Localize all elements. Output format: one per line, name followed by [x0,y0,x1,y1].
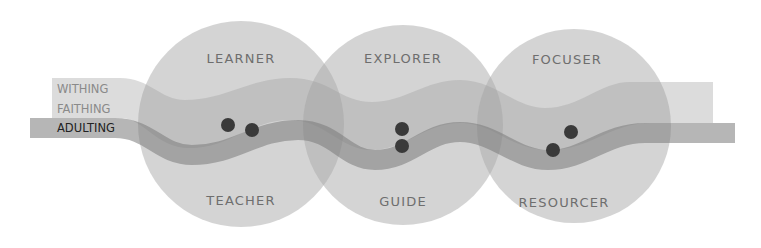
dot [395,122,409,136]
label-resourcer: RESOURCER [519,195,610,210]
band-label-adulting: ADULTING [57,121,115,135]
band-label-withing: WITHING [57,82,108,96]
dot [245,123,259,137]
label-teacher: TEACHER [205,193,275,208]
dot [564,125,578,139]
dot [221,118,235,132]
label-learner: LEARNER [207,51,276,66]
label-explorer: EXPLORER [364,51,442,66]
venn-wave-diagram: LEARNER TEACHER EXPLORER GUIDE FOCUSER R… [0,0,761,248]
band-label-faithing: FAITHING [57,102,110,116]
diagram-canvas: LEARNER TEACHER EXPLORER GUIDE FOCUSER R… [0,0,761,248]
label-guide: GUIDE [379,194,427,209]
dot [546,143,560,157]
label-focuser: FOCUSER [532,52,602,67]
band-labels: WITHING FAITHING ADULTING [57,82,115,135]
dot [395,139,409,153]
